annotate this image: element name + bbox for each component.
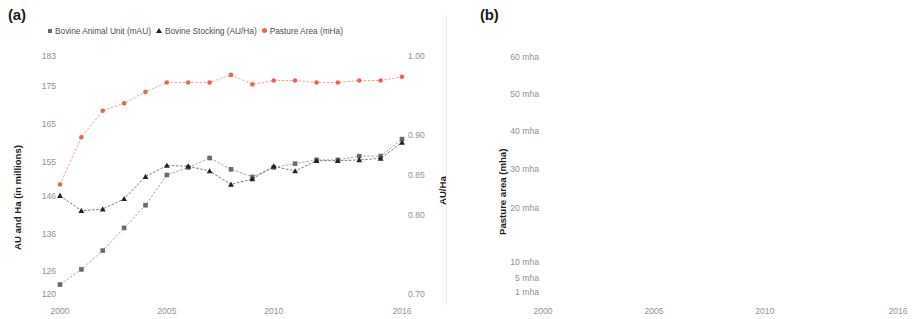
legend-item-bovine-stocking-au-ha[interactable]: Bovine Stocking (AU/Ha) (156, 25, 257, 36)
y-axis-tick: 10 mha (485, 257, 539, 267)
x-axis-tick: 2010 (745, 306, 785, 316)
legend-label: Pasture Area (mHa) (270, 26, 343, 36)
panel-divider (446, 14, 447, 306)
y-axis-tick: 60 mha (485, 52, 539, 62)
y-axis-tick: 126 (8, 266, 56, 276)
panel-b-label: (b) (480, 6, 499, 23)
y-axis-tick: 40 mha (485, 126, 539, 136)
x-axis-tick: 2016 (878, 306, 916, 316)
panel-a-label: (a) (8, 6, 26, 23)
y-axis-right-tick: 0.70 (408, 289, 448, 299)
x-axis-tick: 2000 (523, 306, 563, 316)
series-bovine-animal-unit-mau (58, 137, 405, 287)
y-axis-tick: 175 (8, 81, 56, 91)
legend-item-bovine-animal-unit-mau[interactable]: Bovine Animal Unit (mAU) (48, 25, 151, 36)
y-axis-tick: 165 (8, 119, 56, 129)
panel-a-plot (60, 56, 402, 294)
circle-marker-icon (262, 28, 267, 33)
y-axis-tick: 20 mha (485, 203, 539, 213)
x-axis-tick: 2010 (254, 306, 294, 316)
y-axis-tick: 50 mha (485, 89, 539, 99)
y-axis-right-tick: 1.00 (408, 51, 448, 61)
x-axis-tick: 2005 (147, 306, 187, 316)
panel-a-legend: Bovine Animal Unit (mAU)Bovine Stocking … (48, 25, 348, 36)
y-axis-right-tick: 0.80 (408, 210, 448, 220)
y-axis-tick: 136 (8, 229, 56, 239)
x-axis-tick: 2000 (40, 306, 80, 316)
y-axis-tick: 183 (8, 51, 56, 61)
series-bovine-stocking-au-ha (57, 140, 405, 213)
panel-a: (a) Bovine Animal Unit (mAU)Bovine Stock… (0, 0, 462, 319)
legend-label: Bovine Stocking (AU/Ha) (165, 26, 257, 36)
y-axis-right-tick: 0.85 (408, 170, 448, 180)
legend-item-pasture-area-mha[interactable]: Pasture Area (mHa) (262, 25, 343, 36)
panel-b-y-title: Pasture area (mha) (497, 149, 508, 235)
figure-root: (a) Bovine Animal Unit (mAU)Bovine Stock… (0, 0, 916, 319)
x-axis-tick: 2016 (382, 306, 422, 316)
legend-label: Bovine Animal Unit (mAU) (55, 26, 151, 36)
y-axis-tick: 155 (8, 157, 56, 167)
panel-a-svg (60, 56, 402, 294)
triangle-marker-icon (156, 28, 162, 33)
y-axis-tick: 30 mha (485, 164, 539, 174)
x-axis-tick: 2005 (634, 306, 674, 316)
y-axis-tick: 146 (8, 191, 56, 201)
y-axis-tick: 5 mha (485, 273, 539, 283)
y-axis-right-tick: 0.90 (408, 130, 448, 140)
y-axis-tick: 120 (8, 289, 56, 299)
square-marker-icon (48, 29, 52, 33)
panel-b: (b) AmazôniaCerradoPampaCaatinga+Mata At… (462, 0, 916, 319)
y-axis-tick: 1 mha (485, 287, 539, 297)
